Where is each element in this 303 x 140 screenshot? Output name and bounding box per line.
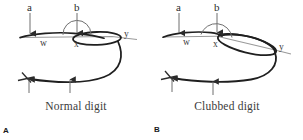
- label-point-y: y: [124, 29, 129, 39]
- label-point-x: x: [74, 39, 79, 49]
- panel-normal-digit: a b w x y Normal digit: [0, 0, 152, 140]
- label-point-w: w: [40, 38, 47, 48]
- label-angle-a: a: [176, 1, 181, 13]
- label-point-x: x: [213, 39, 218, 49]
- clubbed-digit-drawing: a b w x y: [151, 0, 303, 140]
- panel-letter-b: B: [154, 125, 160, 134]
- proximal-fold-marks: [161, 71, 177, 82]
- caption-normal-digit: Normal digit: [0, 100, 152, 112]
- label-angle-b: b: [74, 1, 80, 13]
- label-angle-a: a: [27, 1, 32, 13]
- clubbing-diagram-figure: a b w x y Normal digit: [0, 0, 303, 140]
- label-point-w: w: [183, 37, 190, 47]
- caption-clubbed-digit: Clubbed digit: [151, 100, 303, 112]
- angle-b-leader: [63, 13, 91, 35]
- label-point-y: y: [279, 42, 284, 52]
- label-angle-b: b: [214, 1, 220, 13]
- volar-pulp-contour: [173, 53, 276, 82]
- panel-letter-a: A: [3, 126, 9, 135]
- panel-clubbed-digit: a b w x y Clubbed digit: [151, 0, 303, 140]
- proximal-fold-marks: [18, 73, 34, 83]
- normal-digit-drawing: a b w x y: [0, 0, 152, 140]
